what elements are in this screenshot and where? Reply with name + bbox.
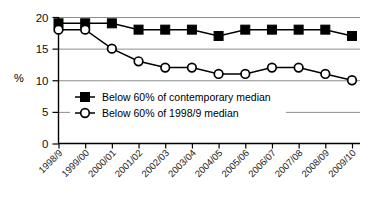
data-point-s2-4	[161, 63, 170, 72]
data-point-s2-10	[321, 70, 330, 79]
data-point-s1-11	[348, 31, 357, 40]
data-point-s2-5	[188, 63, 197, 72]
data-point-s1-2	[107, 19, 116, 28]
y-tick-label-15: 15	[36, 43, 49, 55]
data-point-s1-5	[187, 25, 196, 34]
chart-legend: Below 60% of contemporary medianBelow 60…	[70, 88, 286, 122]
data-point-s2-2	[108, 44, 117, 53]
legend-item-1[interactable]: Below 60% of contemporary median	[75, 91, 271, 103]
data-point-s1-7	[241, 25, 250, 34]
y-axis-label: %	[14, 72, 24, 84]
data-point-s2-3	[134, 57, 143, 66]
legend-square-icon	[81, 93, 90, 102]
y-tick-label-20: 20	[36, 12, 49, 24]
data-point-s2-8	[268, 63, 277, 72]
y-tick-label-5: 5	[42, 106, 48, 118]
y-tick-label-10: 10	[36, 75, 49, 87]
poverty-rate-line-chart: % 05101520 1998/91999/002000/012001/0220…	[0, 0, 382, 201]
data-point-s2-1	[81, 25, 90, 34]
data-point-s1-3	[134, 25, 143, 34]
legend-label-1: Below 60% of contemporary median	[102, 91, 271, 103]
data-point-s2-11	[348, 76, 357, 85]
data-point-s2-0	[54, 25, 63, 34]
data-point-s1-8	[267, 25, 276, 34]
legend-circle-icon	[81, 109, 90, 118]
data-point-s1-4	[161, 25, 170, 34]
y-tick-label-0: 0	[42, 138, 48, 150]
chart-container: % 05101520 1998/91999/002000/012001/0220…	[0, 0, 382, 201]
data-point-s2-9	[294, 63, 303, 72]
data-point-s1-10	[321, 25, 330, 34]
data-point-s1-9	[294, 25, 303, 34]
legend-label-2: Below 60% of 1998/9 median	[102, 107, 239, 119]
data-point-s1-6	[214, 31, 223, 40]
data-point-s2-6	[214, 70, 223, 79]
data-point-s2-7	[241, 70, 250, 79]
